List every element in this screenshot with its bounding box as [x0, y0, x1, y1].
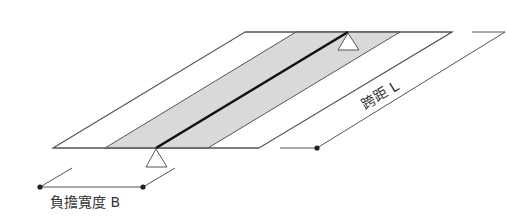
width-dimension-dot-left	[37, 184, 42, 189]
width-label: 負擔寬度 B	[50, 194, 120, 210]
width-dimension	[37, 168, 175, 190]
span-dimension-dot	[314, 145, 319, 150]
slab-diagram: 跨距 L 負擔寬度 B	[0, 0, 507, 224]
width-dimension-dot-right	[140, 184, 145, 189]
support-bottom-triangle-icon	[146, 149, 167, 167]
